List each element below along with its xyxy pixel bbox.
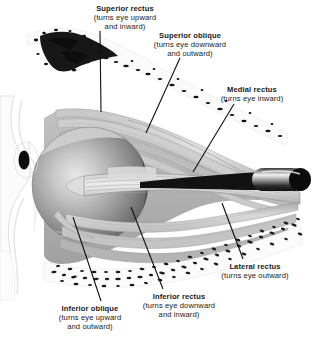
label-medial-rectus-action-1: (turns eye inward) (221, 94, 284, 103)
label-superior-oblique-action-1: (turns eye downward (154, 40, 226, 49)
label-inferior-oblique-action-1: (turns eye upward (59, 313, 121, 322)
label-superior-oblique-action-2: and outward) (154, 49, 226, 58)
label-medial-rectus-name: Medial rectus (221, 85, 284, 94)
label-inferior-oblique: Inferior oblique (turns eye upward and o… (59, 304, 121, 332)
label-superior-rectus: Superior rectus (turns eye upward and in… (94, 4, 156, 32)
label-medial-rectus: Medial rectus (turns eye inward) (221, 85, 284, 103)
label-superior-rectus-action-1: (turns eye upward (94, 13, 156, 22)
label-inferior-rectus: Inferior rectus (turns eye downward and … (143, 292, 215, 320)
label-inferior-oblique-action-2: and outward) (59, 322, 121, 331)
label-inferior-rectus-action-2: and inward) (143, 310, 215, 319)
label-lateral-rectus-action-1: (turns eye outward) (221, 271, 288, 280)
label-lateral-rectus-name: Lateral rectus (221, 262, 288, 271)
label-superior-rectus-action-2: and inward) (94, 22, 156, 31)
label-inferior-oblique-name: Inferior oblique (59, 304, 121, 313)
label-inferior-rectus-name: Inferior rectus (143, 292, 215, 301)
label-lateral-rectus: Lateral rectus (turns eye outward) (221, 262, 288, 280)
label-superior-oblique-name: Superior oblique (154, 31, 226, 40)
cheek-soft-tissue (0, 250, 15, 300)
label-superior-rectus-name: Superior rectus (94, 4, 156, 13)
eye-muscles-figure: Superior rectus (turns eye upward and in… (0, 0, 314, 338)
label-inferior-rectus-action-1: (turns eye downward (143, 301, 215, 310)
label-superior-oblique: Superior oblique (turns eye downward and… (154, 31, 226, 59)
